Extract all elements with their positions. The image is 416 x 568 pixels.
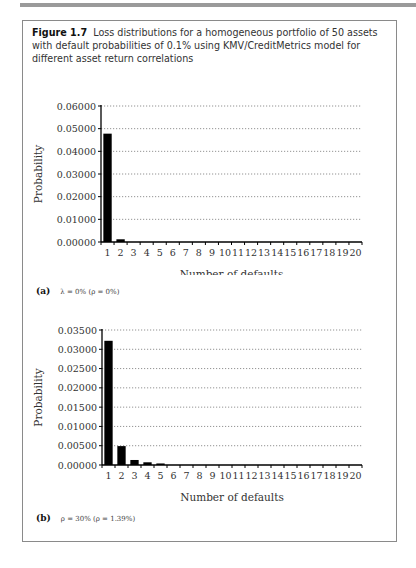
x-tick-label: 16 <box>297 470 309 481</box>
x-tick-label: 15 <box>284 470 296 481</box>
y-tick-label: 0.00000 <box>58 460 97 471</box>
x-tick-label: 17 <box>310 470 322 481</box>
x-tick-label: 16 <box>297 247 309 258</box>
y-tick-label: 0.01000 <box>57 214 96 225</box>
x-tick-label: 9 <box>209 470 215 481</box>
x-tick-label: 12 <box>245 247 257 258</box>
chart-a: 0.000000.010000.020000.030000.040000.050… <box>22 95 397 275</box>
x-tick-label: 1 <box>105 247 111 258</box>
x-tick-label: 20 <box>349 470 361 481</box>
chart-b: 0.000000.005000.010000.015000.020000.025… <box>22 320 397 505</box>
x-tick-label: 10 <box>219 247 231 258</box>
x-tick-label: 5 <box>157 247 163 258</box>
y-tick-label: 0.03500 <box>58 325 97 336</box>
x-tick-label: 15 <box>284 247 296 258</box>
x-tick-label: 19 <box>336 247 348 258</box>
x-tick-label: 2 <box>118 470 124 481</box>
panel-a-label: (a)λ = 0% (ρ = 0%) <box>36 286 119 296</box>
x-tick-label: 4 <box>144 247 150 258</box>
bar <box>103 134 111 242</box>
x-tick-label: 7 <box>183 470 189 481</box>
x-tick-label: 1 <box>105 470 111 481</box>
y-tick-label: 0.02500 <box>58 363 97 374</box>
y-tick-label: 0.02000 <box>57 191 96 202</box>
x-tick-label: 3 <box>131 470 137 481</box>
bar <box>117 446 125 465</box>
figure-caption: Figure 1.7 Loss distributions for a homo… <box>32 26 390 65</box>
x-tick-label: 6 <box>170 247 176 258</box>
x-tick-label: 7 <box>183 247 189 258</box>
page-top-rule <box>20 3 416 7</box>
x-tick-label: 14 <box>271 470 283 481</box>
bar <box>104 341 112 465</box>
y-tick-label: 0.05000 <box>57 123 96 134</box>
bar <box>116 239 124 242</box>
y-tick-label: 0.04000 <box>57 146 96 157</box>
y-tick-label: 0.02000 <box>58 382 97 393</box>
x-axis-label: Number of defaults <box>180 491 284 503</box>
x-tick-label: 5 <box>157 470 163 481</box>
y-tick-label: 0.01500 <box>58 402 97 413</box>
x-tick-label: 18 <box>323 470 335 481</box>
bar <box>130 460 138 465</box>
x-tick-label: 8 <box>196 470 202 481</box>
y-tick-label: 0.03000 <box>57 169 96 180</box>
y-tick-label: 0.06000 <box>57 101 96 112</box>
x-tick-label: 9 <box>209 247 215 258</box>
y-axis-label: Probability <box>32 145 44 203</box>
x-tick-label: 11 <box>232 470 244 481</box>
x-tick-label: 19 <box>336 470 348 481</box>
x-tick-label: 13 <box>258 470 270 481</box>
x-tick-label: 6 <box>170 470 176 481</box>
x-tick-label: 4 <box>144 470 150 481</box>
panel-b-label: (b)ρ = 30% (ρ = 1.39%) <box>36 513 135 523</box>
x-tick-label: 2 <box>118 247 124 258</box>
y-tick-label: 0.00000 <box>57 237 96 248</box>
panel-a-letter: (a) <box>36 286 50 296</box>
bar <box>143 462 151 465</box>
y-tick-label: 0.01000 <box>58 421 97 432</box>
x-tick-label: 10 <box>219 470 231 481</box>
figure-number: Figure 1.7 <box>32 27 87 38</box>
x-tick-label: 3 <box>131 247 137 258</box>
y-tick-label: 0.03000 <box>58 344 97 355</box>
x-tick-label: 14 <box>271 247 283 258</box>
y-axis-label: Probability <box>32 368 44 426</box>
x-tick-label: 20 <box>349 247 361 258</box>
x-tick-label: 13 <box>258 247 270 258</box>
x-axis-label: Number of defaults <box>180 268 284 275</box>
panel-a-text: λ = 0% (ρ = 0%) <box>60 288 119 296</box>
x-tick-label: 12 <box>245 470 257 481</box>
panel-b-text: ρ = 30% (ρ = 1.39%) <box>61 515 135 523</box>
x-tick-label: 11 <box>232 247 244 258</box>
x-tick-label: 17 <box>310 247 322 258</box>
x-tick-label: 18 <box>323 247 335 258</box>
panel-b-letter: (b) <box>36 513 51 523</box>
bar <box>156 463 164 465</box>
y-tick-label: 0.00500 <box>58 440 97 451</box>
x-tick-label: 8 <box>196 247 202 258</box>
